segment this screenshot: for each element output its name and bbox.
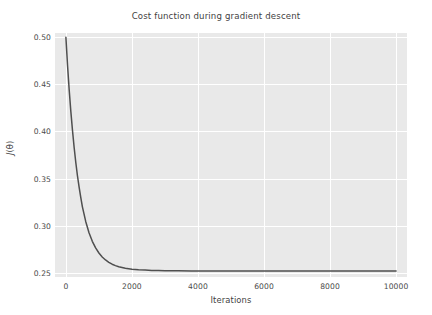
x-tick-label: 4000 <box>188 282 208 291</box>
y-axis-tick-labels: 0.250.300.350.400.450.50 <box>0 0 51 315</box>
y-tick-label: 0.35 <box>5 174 51 183</box>
x-tick-label: 10000 <box>384 282 409 291</box>
x-tick-label: 6000 <box>254 282 274 291</box>
x-axis-label: Iterations <box>55 295 407 305</box>
plot-area <box>55 33 407 277</box>
cost-curve-line <box>66 37 396 271</box>
cost-curve-plot <box>55 33 407 277</box>
chart-title: Cost function during gradient descent <box>0 11 432 21</box>
y-tick-label: 0.40 <box>5 127 51 136</box>
y-tick-label: 0.50 <box>5 33 51 42</box>
x-tick-label: 2000 <box>122 282 142 291</box>
y-tick-label: 0.30 <box>5 221 51 230</box>
y-tick-label: 0.25 <box>5 268 51 277</box>
y-tick-label: 0.45 <box>5 80 51 89</box>
chart-figure: Cost function during gradient descent J(… <box>0 0 432 315</box>
x-tick-label: 0 <box>63 282 68 291</box>
x-tick-label: 8000 <box>320 282 340 291</box>
